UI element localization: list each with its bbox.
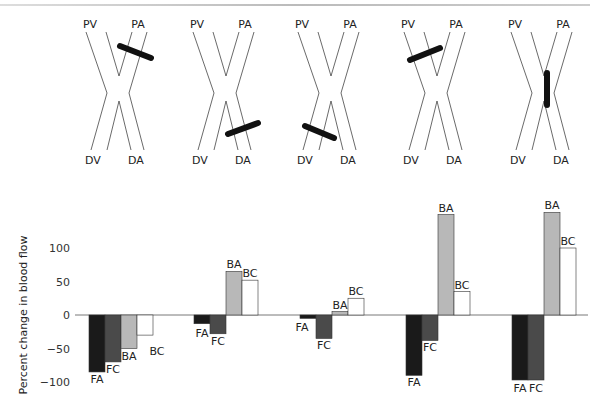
label-da: DA bbox=[553, 154, 569, 167]
label-dv: DV bbox=[85, 154, 101, 167]
y-tick-label: 100 bbox=[49, 242, 70, 255]
bar-group: FAFCBABC bbox=[194, 258, 258, 347]
y-tick-label: −100 bbox=[40, 376, 70, 389]
bar-label-fa: FA bbox=[196, 327, 209, 340]
bar-label-fa: FA bbox=[296, 321, 309, 334]
vessel-diagram: PVPADVDA bbox=[508, 18, 572, 167]
label-dv: DV bbox=[510, 154, 526, 167]
bar-label-fc: FC bbox=[423, 341, 437, 354]
bar-label-ba: BA bbox=[544, 199, 560, 212]
vessel-diagram: PVPADVDA bbox=[190, 18, 258, 167]
bar-bc bbox=[348, 298, 364, 315]
bar-label-bc: BC bbox=[149, 345, 164, 358]
bar-bc bbox=[560, 248, 576, 315]
y-tick-label: 0 bbox=[63, 309, 70, 322]
ligature-mark bbox=[410, 48, 440, 60]
bar-fa bbox=[194, 315, 210, 324]
label-dv: DV bbox=[192, 154, 208, 167]
bar-label-ba: BA bbox=[438, 202, 454, 215]
bar-fa bbox=[300, 315, 316, 318]
bar-fa bbox=[512, 315, 528, 380]
bar-label-fc: FC bbox=[106, 363, 120, 376]
bar-fa bbox=[89, 315, 105, 372]
label-pv: PV bbox=[401, 18, 416, 31]
bar-fc bbox=[105, 315, 121, 362]
bar-label-bc: BC bbox=[348, 285, 363, 298]
y-axis-label: Percent change in blood flow bbox=[17, 235, 30, 394]
bar-group: FAFCBABC bbox=[512, 199, 576, 394]
label-dv: DV bbox=[403, 154, 419, 167]
y-tick-label: −50 bbox=[47, 343, 70, 356]
bar-bc bbox=[242, 280, 258, 315]
bar-label-fa: FA bbox=[514, 382, 527, 395]
vessel-diagram: PVPADVDA bbox=[401, 18, 465, 167]
bar-group: FAFCBABC bbox=[296, 285, 364, 352]
bar-ba bbox=[544, 212, 560, 315]
bar-ba bbox=[332, 312, 348, 315]
bar-fc bbox=[422, 315, 438, 340]
bar-group: FAFCBABC bbox=[89, 315, 165, 386]
label-pv: PV bbox=[190, 18, 205, 31]
ligature-mark bbox=[305, 126, 334, 138]
label-da: DA bbox=[446, 154, 462, 167]
bar-ba bbox=[438, 215, 454, 316]
bar-label-fc: FC bbox=[211, 335, 225, 348]
bar-label-fc: FC bbox=[529, 382, 543, 395]
bar-label-fa: FA bbox=[91, 373, 104, 386]
bar-label-bc: BC bbox=[560, 235, 575, 248]
bar-group: FAFCBABC bbox=[406, 202, 470, 390]
bar-fc bbox=[316, 315, 332, 338]
y-tick-label: 50 bbox=[56, 276, 70, 289]
label-pv: PV bbox=[83, 18, 98, 31]
bar-ba bbox=[121, 315, 137, 349]
vessel-diagrams: PVPADVDAPVPADVDAPVPADVDAPVPADVDAPVPADVDA bbox=[0, 0, 601, 200]
bar-fc bbox=[210, 315, 226, 334]
bar-fa bbox=[406, 315, 422, 375]
vessel-diagram: PVPADVDA bbox=[295, 18, 359, 167]
label-pv: PV bbox=[295, 18, 310, 31]
label-pa: PA bbox=[556, 18, 570, 31]
label-da: DA bbox=[235, 154, 251, 167]
vessel-diagram: PVPADVDA bbox=[83, 18, 151, 167]
bar-label-fc: FC bbox=[317, 339, 331, 352]
label-dv: DV bbox=[297, 154, 313, 167]
label-pa: PA bbox=[343, 18, 357, 31]
label-da: DA bbox=[128, 154, 144, 167]
bar-label-ba: BA bbox=[332, 299, 348, 312]
bar-label-ba: BA bbox=[226, 258, 242, 271]
label-pa: PA bbox=[238, 18, 252, 31]
bar-label-fa: FA bbox=[408, 376, 421, 389]
bar-bc bbox=[454, 292, 470, 315]
bar-fc bbox=[528, 315, 544, 380]
bar-label-bc: BC bbox=[242, 267, 257, 280]
bar-bc bbox=[137, 315, 153, 335]
label-pa: PA bbox=[131, 18, 145, 31]
label-da: DA bbox=[340, 154, 356, 167]
label-pv: PV bbox=[508, 18, 523, 31]
label-pa: PA bbox=[449, 18, 463, 31]
bar-label-ba: BA bbox=[121, 350, 137, 363]
bar-ba bbox=[226, 271, 242, 315]
bar-label-bc: BC bbox=[454, 279, 469, 292]
